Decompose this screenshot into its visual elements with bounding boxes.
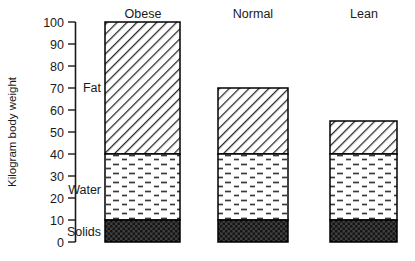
bar-obese-segment-solids — [105, 220, 180, 242]
bar-normal-segment-water — [218, 154, 288, 220]
bar-normal-segment-solids — [218, 220, 288, 242]
segment-label-solids: Solids — [67, 225, 101, 239]
y-tick-label-100: 100 — [43, 16, 64, 30]
group-label-obese: Obese — [125, 7, 162, 21]
bar-lean-segment-solids — [330, 220, 397, 242]
segment-label-fat: Fat — [83, 81, 102, 95]
y-tick-label-60: 60 — [50, 104, 64, 118]
chart-canvas: 100 90 80 70 60 50 40 30 20 10 0 Kilogra… — [0, 0, 415, 261]
group-label-normal: Normal — [233, 7, 273, 21]
bar-lean — [330, 121, 397, 242]
body-composition-chart: 100 90 80 70 60 50 40 30 20 10 0 Kilogra… — [0, 0, 415, 261]
bar-normal — [218, 88, 288, 242]
bar-obese — [105, 22, 180, 242]
y-tick-label-10: 10 — [50, 214, 64, 228]
group-label-lean: Lean — [350, 7, 378, 21]
y-tick-label-0: 0 — [57, 236, 64, 250]
bar-lean-segment-fat — [330, 121, 397, 154]
y-axis-title: Kilogram body weight — [6, 76, 18, 187]
bar-lean-segment-water — [330, 154, 397, 220]
y-tick-label-90: 90 — [50, 38, 64, 52]
bar-obese-segment-water — [105, 154, 180, 220]
bar-normal-segment-fat — [218, 88, 288, 154]
y-tick-label-70: 70 — [50, 82, 64, 96]
bar-obese-segment-fat — [105, 22, 180, 154]
y-tick-label-20: 20 — [50, 192, 64, 206]
y-tick-label-40: 40 — [50, 148, 64, 162]
segment-label-water: Water — [68, 183, 101, 197]
y-tick-label-30: 30 — [50, 170, 64, 184]
y-tick-label-50: 50 — [50, 126, 64, 140]
y-tick-label-80: 80 — [50, 60, 64, 74]
